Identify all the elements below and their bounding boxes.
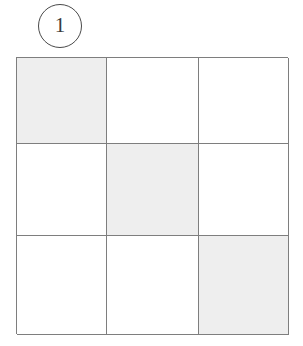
panel-number-badge: 1	[38, 4, 82, 48]
panel-number-label: 1	[55, 15, 66, 36]
grid-cell-r1c2[interactable]	[107, 58, 199, 144]
matrix-grid	[16, 57, 288, 334]
grid-cell-r3c3[interactable]	[199, 236, 289, 335]
grid-cell-r3c2[interactable]	[107, 236, 199, 335]
grid-cell-r2c3[interactable]	[199, 144, 289, 236]
grid-cell-r3c1[interactable]	[17, 236, 107, 335]
grid-cell-r1c1[interactable]	[17, 58, 107, 144]
grid-cell-r2c2[interactable]	[107, 144, 199, 236]
grid-cell-r1c3[interactable]	[199, 58, 289, 144]
grid-cell-r2c1[interactable]	[17, 144, 107, 236]
